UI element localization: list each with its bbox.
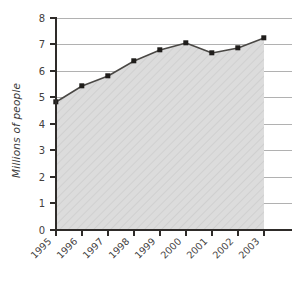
data-point-2003	[261, 35, 266, 40]
y-tick-label-7: 7	[39, 39, 45, 50]
line-area-chart: 8 7 6 5 4 3 2 1 0 1995 1996 1997 1998 19…	[0, 0, 299, 281]
data-point-2000	[183, 40, 188, 45]
data-point-1997	[105, 73, 110, 78]
y-tick-label-4: 4	[39, 119, 45, 130]
data-point-1999	[157, 47, 162, 52]
y-tick-label-3: 3	[39, 145, 45, 156]
data-point-1996	[79, 83, 84, 88]
chart-container: 8 7 6 5 4 3 2 1 0 1995 1996 1997 1998 19…	[0, 0, 299, 281]
y-tick-label-6: 6	[39, 66, 45, 77]
y-axis-title: Millions of people	[10, 83, 22, 178]
y-tick-labels: 8 7 6 5 4 3 2 1 0	[39, 13, 45, 236]
y-tick-label-2: 2	[39, 172, 45, 183]
data-point-1998	[131, 58, 136, 63]
data-point-2001	[209, 50, 214, 55]
y-tick-label-5: 5	[39, 92, 45, 103]
y-tick-label-1: 1	[39, 198, 45, 209]
y-tick-label-8: 8	[39, 13, 45, 24]
data-point-2002	[235, 45, 240, 50]
y-tick-label-0: 0	[39, 225, 45, 236]
